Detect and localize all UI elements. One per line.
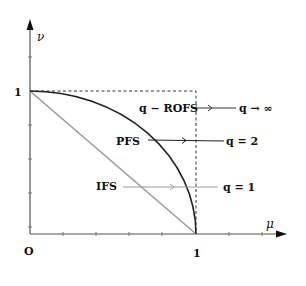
qrofs-diagram: ν μ O 1 1 q − ROFS PFS IFS q → ∞ q = 2 q… — [0, 0, 306, 286]
pfs-label: PFS — [116, 135, 140, 148]
ifs-label: IFS — [96, 180, 117, 193]
y-axis-label: ν — [37, 30, 44, 44]
pfs-annotation: q = 2 — [226, 135, 258, 148]
qrofs-leader — [194, 105, 236, 111]
origin-label: O — [24, 245, 34, 258]
pfs-leader — [148, 138, 224, 144]
ifs-leader — [123, 184, 218, 190]
ifs-annotation: q = 1 — [223, 181, 255, 194]
qrofs-annotation: q → ∞ — [239, 102, 273, 115]
y-axis-arrowhead-icon — [27, 19, 34, 30]
axes — [27, 19, 288, 238]
y-tick-label-1: 1 — [14, 86, 22, 99]
qrofs-label: q − ROFS — [139, 102, 198, 115]
x-axis-label: μ — [266, 217, 274, 231]
x-axis-arrowhead-icon — [276, 231, 287, 238]
x-tick-label-1: 1 — [193, 247, 201, 260]
